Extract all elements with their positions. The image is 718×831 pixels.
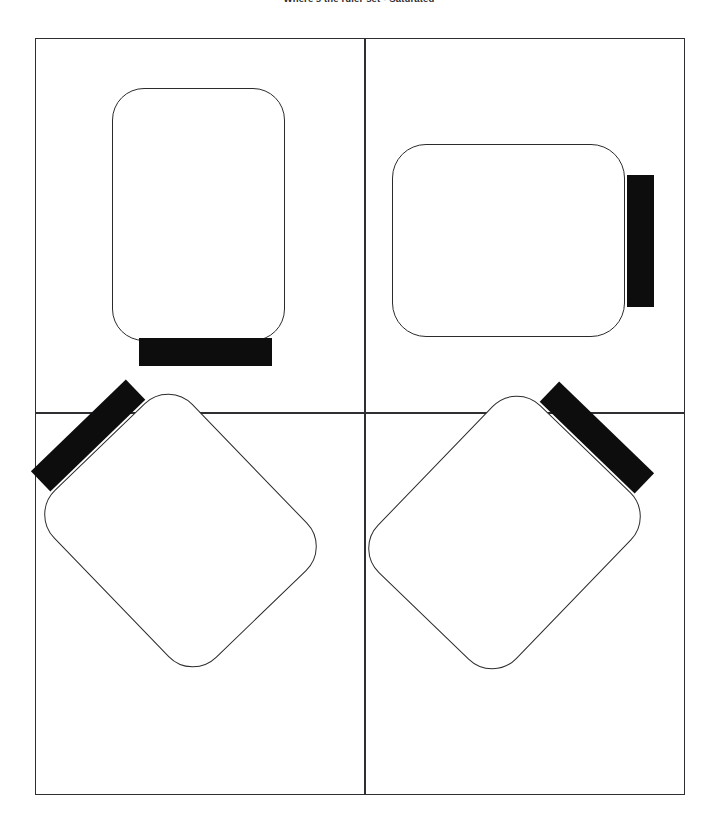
object-group-bottom-right <box>366 414 685 795</box>
object-rotation-wrapper <box>30 380 331 682</box>
panel-bottom-left <box>36 414 364 795</box>
panel-top-left <box>36 39 364 412</box>
object-body-rounded-rect <box>392 144 625 337</box>
object-body-rounded-rect <box>354 382 655 684</box>
object-group-bottom-left <box>36 414 364 795</box>
object-body-rounded-rect <box>112 88 285 341</box>
object-bar-bottom <box>139 338 272 366</box>
figure-title: Where's the ruler set - Saturated <box>0 0 718 4</box>
panel-bottom-right <box>366 414 685 795</box>
object-group-top-left <box>36 39 364 412</box>
object-bar-right <box>627 175 654 307</box>
panel-top-right <box>366 39 685 412</box>
object-group-top-right <box>366 39 685 412</box>
object-rotation-wrapper <box>354 382 655 684</box>
object-body-rounded-rect <box>30 380 331 682</box>
